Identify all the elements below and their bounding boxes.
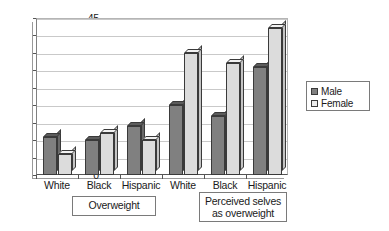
bar-male-black-1 [85, 140, 99, 175]
bar-male-black-4 [211, 116, 225, 175]
category-box-overweight-line1: Overweight [88, 199, 139, 211]
bar-front-face [43, 137, 57, 175]
bar-male-white-3 [169, 105, 183, 175]
bar-chart: 454035302520151050 WhiteBlackHispanicWhi… [0, 0, 389, 231]
x-axis-tick-mark [204, 175, 205, 179]
bar-front-face [226, 63, 240, 175]
category-box-perceived: Perceived selves as overweight [199, 192, 287, 222]
bar-male-hispanic-5 [253, 67, 267, 175]
bars-layer [36, 18, 288, 175]
bar-front-face [169, 105, 183, 175]
bar-front-face [253, 67, 267, 175]
bar-front-face [142, 140, 156, 175]
bar-male-hispanic-2 [127, 126, 141, 175]
bar-female-black-1 [100, 133, 114, 175]
bar-female-white-0 [58, 154, 72, 175]
bar-front-face [184, 53, 198, 175]
x-axis-label-5: Hispanic [240, 180, 294, 191]
bar-front-face [58, 154, 72, 175]
legend-swatch-female-icon [311, 100, 318, 107]
bar-front-face [127, 126, 141, 175]
legend-swatch-male-icon [311, 88, 318, 95]
bar-side-face [198, 45, 202, 171]
x-axis-tick-mark [120, 175, 121, 179]
bar-side-face [240, 55, 244, 171]
bar-side-face [282, 20, 286, 171]
x-axis-tick-mark [78, 175, 79, 179]
legend: Male Female [306, 81, 370, 111]
bar-female-white-3 [184, 53, 198, 175]
category-box-perceived-line1: Perceived selves [205, 195, 281, 207]
legend-item-female: Female [311, 97, 369, 109]
category-box-overweight: Overweight [72, 196, 156, 216]
bar-female-black-4 [226, 63, 240, 175]
legend-label-female: Female [321, 98, 353, 109]
bar-front-face [85, 140, 99, 175]
x-axis-tick-mark [162, 175, 163, 179]
bar-top-face [43, 133, 61, 137]
x-axis-tick-mark [246, 175, 247, 179]
legend-label-male: Male [321, 86, 342, 97]
bar-male-white-0 [43, 137, 57, 175]
legend-item-male: Male [311, 85, 369, 97]
bar-front-face [268, 28, 282, 175]
bar-front-face [100, 133, 114, 175]
bar-female-hispanic-2 [142, 140, 156, 175]
bar-female-hispanic-5 [268, 28, 282, 175]
x-axis-tick-mark [36, 175, 37, 179]
bar-front-face [211, 116, 225, 175]
category-box-perceived-line2: as overweight [212, 207, 274, 219]
